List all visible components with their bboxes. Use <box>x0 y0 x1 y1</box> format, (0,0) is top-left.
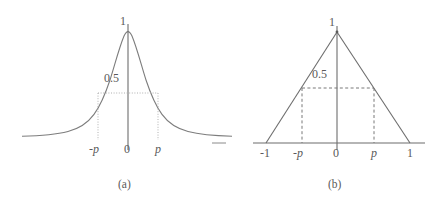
panel-a-plot <box>0 0 220 207</box>
apex-marker <box>336 31 339 34</box>
x-tick-label-minus-p: -p <box>89 143 99 155</box>
panel-b: 1 0.5 -1 -p 0 p 1 (b) <box>220 0 440 207</box>
peak-value-label: 1 <box>329 16 335 28</box>
x-tick-label-plus-p: p <box>371 147 377 159</box>
x-tick-label-minus-one: -1 <box>260 147 270 159</box>
panel-b-plot <box>220 0 440 207</box>
gaussian-curve <box>22 32 232 137</box>
x-tick-label-plus-p: p <box>155 143 161 155</box>
x-tick-label-plus-one: 1 <box>407 147 413 159</box>
figure-container: 1 0.5 -p 0 p (a) <box>0 0 440 207</box>
panel-a-caption: (a) <box>118 179 131 191</box>
panel-a: 1 0.5 -p 0 p (a) <box>0 0 220 207</box>
half-max-value-label: 0.5 <box>104 72 119 84</box>
x-tick-label-zero: 0 <box>124 143 130 155</box>
half-max-value-label: 0.5 <box>312 68 327 80</box>
panel-b-caption: (b) <box>328 179 341 191</box>
x-tick-label-minus-p: -p <box>293 147 303 159</box>
x-tick-label-zero: 0 <box>333 147 339 159</box>
peak-value-label: 1 <box>120 15 126 27</box>
